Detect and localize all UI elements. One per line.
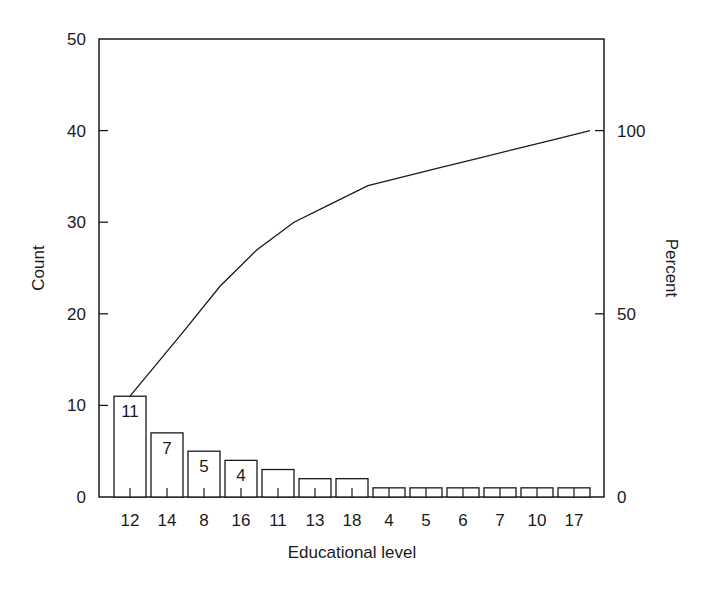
x-tick-label: 14 [158, 511, 177, 530]
y-tick-label: 0 [77, 488, 86, 507]
bar-value-label: 7 [162, 439, 171, 458]
bar-value-label: 5 [199, 457, 208, 476]
x-axis: 121481611131845671017 [121, 511, 584, 530]
y-tick-label: 10 [67, 396, 86, 415]
x-tick-label: 18 [343, 511, 362, 530]
x-axis-title: Educational level [288, 543, 417, 562]
x-tick-label: 12 [121, 511, 140, 530]
pareto-chart: 01020304050 050100 11754 121481611131845… [0, 0, 707, 592]
y2-tick-label: 0 [617, 488, 626, 507]
x-tick-label: 16 [232, 511, 251, 530]
bar-value-label: 11 [121, 402, 139, 421]
y-axis-title: Count [29, 245, 48, 291]
cumulative-percent-line [130, 131, 590, 397]
x-tick-label: 4 [384, 511, 393, 530]
y2-tick-label: 100 [617, 122, 645, 141]
x-tick-label: 17 [565, 511, 584, 530]
plot-frame [99, 39, 604, 497]
y-tick-label: 20 [67, 305, 86, 324]
y-tick-label: 30 [67, 213, 86, 232]
left-y-axis: 01020304050 [67, 30, 108, 507]
bars: 11754 [114, 396, 590, 497]
y2-tick-label: 50 [617, 305, 636, 324]
x-tick-label: 8 [199, 511, 208, 530]
right-y-axis: 050100 [595, 122, 645, 507]
y-tick-label: 50 [67, 30, 86, 49]
x-tick-label: 11 [269, 511, 287, 530]
y2-axis-title: Percent [662, 239, 681, 298]
x-tick-label: 13 [306, 511, 325, 530]
x-tick-label: 6 [458, 511, 467, 530]
x-tick-label: 5 [421, 511, 430, 530]
x-tick-label: 7 [495, 511, 504, 530]
y-tick-label: 40 [67, 122, 86, 141]
x-tick-label: 10 [528, 511, 547, 530]
bar-value-label: 4 [236, 466, 245, 485]
